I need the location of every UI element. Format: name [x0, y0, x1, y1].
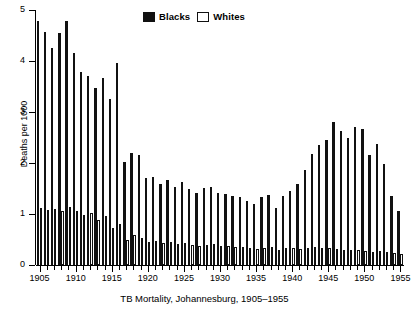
bar-whites-1944 [321, 248, 323, 265]
x-tick-1914 [105, 266, 106, 270]
year-group-1929 [209, 10, 216, 265]
bar-blacks-1933 [239, 197, 241, 265]
x-tick-label-1915: 1915 [92, 273, 132, 283]
year-group-1931 [224, 10, 231, 265]
bar-blacks-1927 [195, 193, 197, 265]
bar-whites-1911 [83, 215, 85, 265]
bar-blacks-1940 [289, 191, 291, 265]
x-tick-1937 [271, 266, 272, 270]
bar-blacks-1931 [224, 194, 226, 265]
x-tick-1949 [357, 266, 358, 270]
year-group-1939 [281, 10, 288, 265]
year-group-1920 [144, 10, 151, 265]
bar-blacks-1921 [152, 177, 154, 265]
bar-whites-1915 [112, 228, 114, 265]
x-tick-label-1925: 1925 [164, 273, 204, 283]
bar-blacks-1919 [138, 155, 140, 265]
bar-whites-1952 [379, 251, 381, 265]
year-group-1922 [159, 10, 166, 265]
bar-whites-1917 [126, 240, 128, 266]
x-tick-1954 [393, 266, 394, 270]
year-group-1951 [368, 10, 375, 265]
x-tick-1936 [263, 266, 264, 270]
x-tick-1934 [249, 266, 250, 270]
year-group-1954 [390, 10, 397, 265]
x-tick-1933 [242, 266, 243, 270]
bar-whites-1951 [372, 252, 374, 265]
chart-caption: TB Mortality, Johannesburg, 1905–1955 [0, 293, 409, 304]
bar-blacks-1910 [73, 53, 75, 265]
x-tick-1908 [61, 266, 62, 270]
x-tick-1953 [386, 266, 387, 270]
bar-whites-1954 [393, 253, 395, 265]
year-group-1923 [166, 10, 173, 265]
x-tick-1942 [307, 266, 308, 270]
bar-whites-1918 [133, 235, 135, 265]
bar-whites-1931 [227, 246, 229, 265]
bar-blacks-1908 [58, 33, 60, 265]
bar-blacks-1932 [231, 196, 233, 265]
bar-blacks-1945 [325, 140, 327, 265]
bar-blacks-1947 [340, 131, 342, 265]
bar-blacks-1915 [109, 99, 111, 265]
bar-whites-1908 [61, 211, 63, 265]
bar-blacks-1936 [260, 197, 262, 265]
x-tick-1940 [292, 266, 293, 272]
bar-whites-1905 [40, 208, 42, 265]
year-group-1921 [151, 10, 158, 265]
x-tick-label-1920: 1920 [128, 273, 168, 283]
bar-whites-1929 [213, 244, 215, 265]
x-tick-1929 [213, 266, 214, 270]
bar-blacks-1914 [102, 78, 104, 265]
bar-whites-1925 [184, 243, 186, 265]
bar-whites-1924 [177, 244, 179, 265]
bar-blacks-1951 [368, 155, 370, 265]
bar-whites-1912 [90, 213, 92, 265]
bar-whites-1909 [69, 207, 71, 265]
bar-blacks-1950 [361, 129, 363, 265]
bar-whites-1919 [141, 238, 143, 265]
x-tick-1905 [40, 266, 41, 272]
bar-blacks-1952 [376, 144, 378, 265]
bar-blacks-1912 [87, 76, 89, 265]
x-tick-1921 [155, 266, 156, 270]
x-tick-1932 [234, 266, 235, 270]
bar-blacks-1948 [347, 138, 349, 266]
x-tick-1906 [47, 266, 48, 270]
bar-whites-1913 [97, 220, 99, 265]
bar-whites-1953 [386, 252, 388, 265]
year-group-1928 [202, 10, 209, 265]
plot-area [36, 10, 404, 265]
bar-blacks-1954 [390, 196, 392, 265]
bar-whites-1937 [271, 247, 273, 265]
x-tick-label-1940: 1940 [272, 273, 312, 283]
year-group-1948 [346, 10, 353, 265]
x-tick-label-1930: 1930 [200, 273, 240, 283]
bar-whites-1945 [328, 248, 330, 265]
bar-whites-1936 [263, 248, 265, 265]
bar-whites-1930 [220, 246, 222, 265]
x-tick-1946 [335, 266, 336, 270]
bar-whites-1938 [278, 250, 280, 265]
y-tick-label-4: 4 [0, 56, 25, 65]
bar-blacks-1916 [116, 63, 118, 265]
bar-blacks-1934 [246, 201, 248, 265]
x-tick-1944 [321, 266, 322, 270]
year-group-1925 [180, 10, 187, 265]
bar-whites-1946 [336, 249, 338, 265]
year-group-1946 [332, 10, 339, 265]
bar-whites-1926 [191, 245, 193, 265]
bar-whites-1935 [256, 249, 258, 265]
bar-whites-1950 [364, 251, 366, 265]
bar-whites-1943 [314, 247, 316, 265]
year-group-1919 [137, 10, 144, 265]
x-tick-1945 [328, 266, 329, 272]
bar-blacks-1946 [332, 122, 334, 265]
x-tick-1922 [162, 266, 163, 270]
bar-blacks-1942 [304, 170, 306, 265]
year-group-1943 [310, 10, 317, 265]
bar-blacks-1923 [166, 180, 168, 265]
x-tick-label-1905: 1905 [20, 273, 60, 283]
y-tick-label-3: 3 [0, 107, 25, 116]
